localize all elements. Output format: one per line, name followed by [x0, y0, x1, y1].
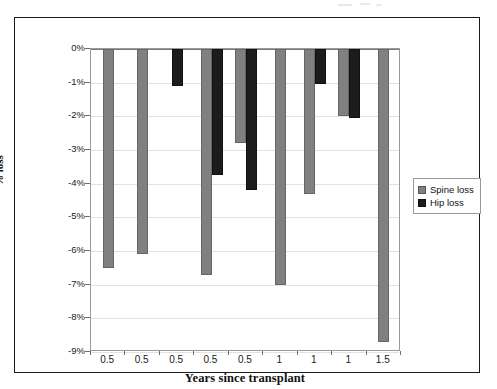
hip-loss-bar: [212, 49, 223, 175]
chart-screenshot: % loss 0%-1%-2%-3%-4%-5%-6%-7%-8%-9% 0.5…: [0, 0, 497, 389]
chart-legend: Spine lossHip loss: [413, 178, 481, 214]
y-axis-tick-label: -5%: [68, 211, 85, 221]
y-axis-tick-label: -7%: [68, 279, 85, 289]
y-axis-tick-label: -3%: [68, 144, 85, 154]
gridline: [91, 285, 399, 286]
legend-item-label: Spine loss: [430, 184, 474, 195]
spine-loss-bar: [103, 49, 114, 268]
y-axis-title: % loss: [0, 155, 5, 186]
hip-loss-bar: [349, 49, 360, 118]
spine-loss-bar: [201, 49, 212, 275]
spine-loss-bar: [338, 49, 349, 116]
hip-loss-bar: [315, 49, 326, 84]
x-axis-tick-label: 0.5: [159, 354, 193, 365]
y-axis-tick-label: -4%: [68, 178, 85, 188]
x-axis-tick-label: 1.5: [366, 354, 400, 365]
y-axis-tick-label: -9%: [68, 346, 85, 356]
x-axis-tick-label: 0.5: [193, 354, 227, 365]
scan-artifact: [338, 4, 352, 6]
y-axis-tick-labels: 0%-1%-2%-3%-4%-5%-6%-7%-8%-9%: [49, 48, 85, 351]
y-axis-tick-label: -1%: [68, 77, 85, 87]
legend-item-label: Hip loss: [430, 197, 464, 208]
scan-artifact: [360, 3, 370, 5]
spine-loss-bar: [275, 49, 286, 285]
x-axis-tick-label: 0.5: [124, 354, 158, 365]
scan-artifact: [376, 4, 382, 6]
spine-loss-bar: [137, 49, 148, 254]
figure-frame: % loss 0%-1%-2%-3%-4%-5%-6%-7%-8%-9% 0.5…: [14, 17, 480, 373]
x-axis-tick-label: 1: [331, 354, 365, 365]
legend-item: Hip loss: [418, 196, 474, 209]
x-axis-tick-label: 1: [297, 354, 331, 365]
spine-loss-bar: [304, 49, 315, 194]
x-axis-tick-label: 0.5: [228, 354, 262, 365]
hip-loss-bar: [172, 49, 183, 86]
y-axis-tick-label: -6%: [68, 245, 85, 255]
x-axis-title: Years since transplant: [90, 371, 400, 386]
legend-item: Spine loss: [418, 183, 474, 196]
x-axis-tick-label: 0.5: [90, 354, 124, 365]
y-axis-tick-label: -2%: [68, 110, 85, 120]
x-axis-tick: [400, 351, 401, 355]
y-axis-tick-label: 0%: [71, 43, 85, 53]
spine-loss-bar: [378, 49, 389, 342]
hip-loss-bar: [246, 49, 257, 190]
spine-loss-bar: [235, 49, 246, 143]
plot-area: [90, 48, 400, 351]
hip-loss-swatch-icon: [418, 199, 426, 207]
y-axis-tick-label: -8%: [68, 312, 85, 322]
x-axis-tick-label: 1: [262, 354, 296, 365]
spine-loss-swatch-icon: [418, 186, 426, 194]
x-axis-tick-labels: 0.50.50.50.50.51111.5: [90, 354, 400, 370]
gridline: [91, 318, 399, 319]
